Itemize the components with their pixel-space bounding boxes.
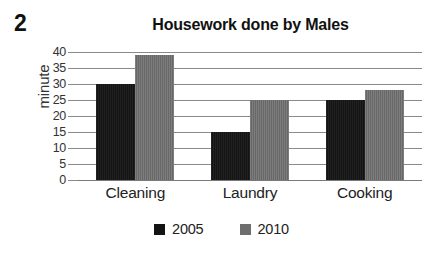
bar-2005-cooking bbox=[326, 100, 365, 180]
y-tick-mark bbox=[68, 52, 78, 53]
y-tick-label: 20 bbox=[26, 110, 66, 123]
bar-2005-cleaning bbox=[96, 84, 135, 180]
legend-label-2005: 2005 bbox=[172, 222, 203, 237]
y-tick-mark bbox=[68, 116, 78, 117]
legend-item-2010: 2010 bbox=[240, 222, 289, 237]
bar-2010-cooking bbox=[365, 90, 404, 180]
chart-title: Housework done by Males bbox=[78, 16, 423, 34]
y-tick-label: 25 bbox=[26, 94, 66, 107]
chart-figure: 2 Housework done by Males minute 0510152… bbox=[0, 0, 443, 258]
y-tick-mark bbox=[68, 180, 78, 181]
y-tick-label: 10 bbox=[26, 142, 66, 155]
chart-legend: 20052010 bbox=[0, 222, 443, 237]
y-tick-mark bbox=[68, 84, 78, 85]
x-axis-label-cooking: Cooking bbox=[307, 184, 422, 202]
bar-2010-laundry bbox=[250, 100, 289, 180]
x-axis-label-laundry: Laundry bbox=[193, 184, 308, 202]
bar-2010-cleaning bbox=[135, 55, 174, 180]
legend-swatch-2010 bbox=[240, 224, 251, 235]
y-tick-label: 40 bbox=[26, 46, 66, 59]
y-tick-mark bbox=[68, 100, 78, 101]
y-tick-label: 30 bbox=[26, 78, 66, 91]
y-tick-label: 5 bbox=[26, 158, 66, 171]
y-tick-mark bbox=[68, 148, 78, 149]
y-tick-label: 15 bbox=[26, 126, 66, 139]
question-number: 2 bbox=[14, 12, 26, 35]
bars-layer bbox=[78, 52, 422, 180]
y-tick-label: 35 bbox=[26, 62, 66, 75]
plot-area bbox=[78, 52, 422, 180]
x-axis-label-cleaning: Cleaning bbox=[78, 184, 193, 202]
y-tick-mark bbox=[68, 164, 78, 165]
legend-swatch-2005 bbox=[154, 224, 165, 235]
bar-2005-laundry bbox=[211, 132, 250, 180]
legend-label-2010: 2010 bbox=[258, 222, 289, 237]
y-tick-label: 0 bbox=[26, 174, 66, 187]
y-tick-mark bbox=[68, 68, 78, 69]
legend-item-2005: 2005 bbox=[154, 222, 203, 237]
y-tick-mark bbox=[68, 132, 78, 133]
